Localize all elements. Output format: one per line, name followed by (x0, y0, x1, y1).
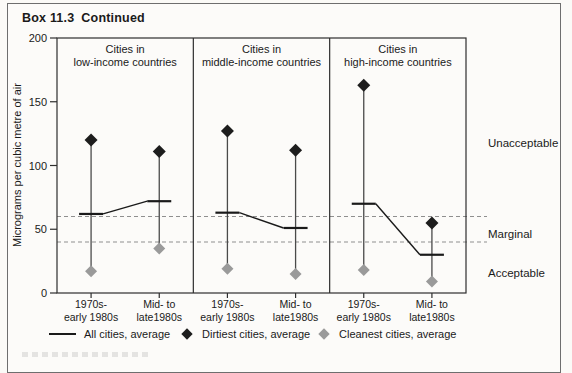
cleanest-marker (426, 276, 438, 288)
x-tick-label-line2: late1980s (409, 311, 455, 323)
dirtiest-marker (357, 79, 370, 92)
dirtiest-marker (221, 125, 234, 138)
dirtiest-marker (153, 145, 166, 158)
all-cities-trend-line (239, 213, 283, 228)
x-tick-label-line2: late1980s (136, 311, 182, 323)
y-tick-label: 0 (41, 287, 47, 299)
x-tick-label-line2: early 1980s (200, 311, 254, 323)
legend-label-cleanest-cities: Cleanest cities, average (339, 328, 456, 340)
cleanest-marker (85, 265, 97, 277)
x-tick-label-line1: 1970s- (348, 298, 381, 310)
y-tick-label: 200 (29, 32, 47, 44)
zone-label-marginal: Marginal (488, 228, 532, 240)
legend-item-dirtiest-cities: Dirtiest cities, average (181, 326, 310, 342)
x-tick-label-line1: 1970s- (211, 298, 244, 310)
panel-title-line1: Cities in (378, 43, 417, 55)
all-cities-trend-line (376, 204, 420, 255)
cleanest-marker (290, 268, 302, 280)
dirtiest-marker (85, 134, 98, 147)
x-tick-label-line2: early 1980s (64, 311, 118, 323)
legend-label-dirtiest-cities: Dirtiest cities, average (202, 328, 310, 340)
panel-title-line2: high-income countries (344, 56, 452, 68)
panel-title-line2: low-income countries (74, 56, 178, 68)
line-swatch-icon (49, 333, 76, 335)
gray-diamond-swatch-icon (318, 328, 329, 339)
all-cities-trend-line (103, 201, 147, 214)
cutoff-print-remnant (22, 352, 152, 357)
cleanest-marker (221, 263, 233, 275)
x-tick-label-line1: Mid- to (143, 298, 175, 310)
panel-title-line2: middle-income countries (202, 56, 322, 68)
zone-label-unacceptable: Unacceptable (488, 137, 558, 149)
legend-item-cleanest-cities: Cleanest cities, average (318, 326, 456, 342)
x-tick-label-line1: 1970s- (75, 298, 108, 310)
cleanest-marker (358, 264, 370, 276)
legend-item-all-cities: All cities, average (49, 326, 170, 342)
y-tick-label: 150 (29, 96, 47, 108)
x-tick-label-line2: early 1980s (337, 311, 391, 323)
zone-label-acceptable: Acceptable (488, 267, 545, 279)
legend: All cities, average Dirtiest cities, ave… (0, 326, 572, 342)
plot-frame (57, 38, 466, 293)
x-tick-label-line2: late1980s (273, 311, 319, 323)
panel-title-line1: Cities in (242, 43, 281, 55)
y-tick-label: 50 (35, 223, 47, 235)
black-diamond-swatch-icon (181, 328, 192, 339)
x-tick-label-line1: Mid- to (280, 298, 312, 310)
dirtiest-marker (289, 144, 302, 157)
y-tick-label: 100 (29, 160, 47, 172)
dirtiest-marker (425, 216, 438, 229)
cleanest-marker (153, 242, 165, 254)
legend-label-all-cities: All cities, average (84, 328, 170, 340)
panel-title-line1: Cities in (106, 43, 145, 55)
x-tick-label-line1: Mid- to (416, 298, 448, 310)
